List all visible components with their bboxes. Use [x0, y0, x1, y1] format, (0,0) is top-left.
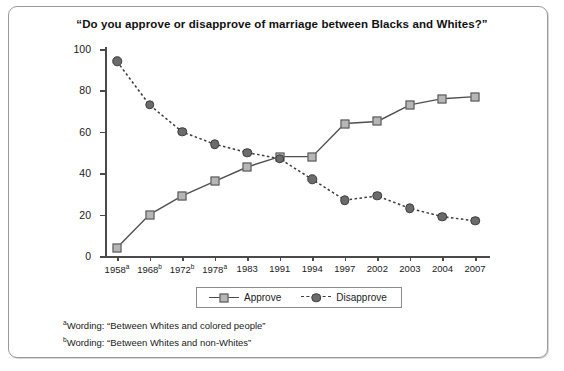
x-tick-label: 1994: [302, 263, 323, 274]
y-tick: 100: [100, 49, 105, 51]
y-tick-label: 40: [79, 167, 91, 179]
x-tick: [247, 256, 249, 261]
y-tick: 80: [100, 90, 105, 92]
data-point-approve[interactable]: [113, 243, 122, 252]
x-tick: [442, 256, 444, 261]
x-tick-label: 2003: [399, 263, 420, 274]
data-point-disapprove[interactable]: [438, 212, 448, 222]
x-tick: [117, 256, 119, 261]
series-lines: [105, 49, 487, 256]
x-tick: [215, 256, 217, 261]
y-tick-label: 20: [79, 209, 91, 221]
y-tick-label: 100: [73, 43, 91, 55]
data-point-disapprove[interactable]: [275, 154, 285, 164]
data-point-disapprove[interactable]: [112, 57, 122, 67]
x-tick: [475, 256, 477, 261]
data-point-approve[interactable]: [438, 94, 447, 103]
data-point-approve[interactable]: [145, 210, 154, 219]
y-tick: 20: [100, 215, 105, 217]
chart-legend: Approve Disapprove: [196, 287, 402, 308]
x-tick-label: 1983: [237, 263, 258, 274]
x-tick-label: 1968b: [137, 263, 162, 275]
x-tick: [410, 256, 412, 261]
legend-item-disapprove[interactable]: Disapprove: [301, 292, 387, 303]
legend-key-approve: [209, 292, 239, 303]
chart-figure: “Do you approve or disapprove of marriag…: [0, 0, 564, 371]
y-tick: 60: [100, 132, 105, 134]
x-tick-label: 2007: [464, 263, 485, 274]
legend-label-disapprove: Disapprove: [336, 292, 387, 303]
x-tick-label: 1972b: [170, 263, 195, 275]
data-point-disapprove[interactable]: [373, 191, 383, 201]
x-tick: [377, 256, 379, 261]
x-tick-label: 2002: [367, 263, 388, 274]
footnote-b: bWording: “Between Whites and non-Whites…: [63, 333, 266, 350]
legend-label-approve: Approve: [244, 292, 281, 303]
data-point-approve[interactable]: [405, 100, 414, 109]
data-point-disapprove[interactable]: [340, 195, 350, 205]
data-point-approve[interactable]: [178, 191, 187, 200]
x-tick-label: 1958a: [105, 263, 130, 275]
plot-area: 020406080100: [105, 49, 487, 256]
data-point-disapprove[interactable]: [405, 204, 415, 214]
x-tick-label: 1978a: [202, 263, 227, 275]
y-tick-label: 0: [85, 250, 91, 262]
footnote-a: aWording: “Between Whites and colored pe…: [63, 316, 266, 333]
y-tick: 40: [100, 173, 105, 175]
data-point-approve[interactable]: [471, 92, 480, 101]
y-tick-label: 60: [79, 126, 91, 138]
y-tick-label: 80: [79, 84, 91, 96]
data-point-approve[interactable]: [308, 152, 317, 161]
data-point-disapprove[interactable]: [470, 216, 480, 226]
x-tick: [150, 256, 152, 261]
x-axis-line: [104, 256, 490, 258]
x-tick: [182, 256, 184, 261]
data-point-disapprove[interactable]: [308, 175, 318, 185]
data-point-disapprove[interactable]: [177, 127, 187, 137]
x-tick-label: 1997: [334, 263, 355, 274]
data-point-approve[interactable]: [340, 119, 349, 128]
data-point-approve[interactable]: [243, 162, 252, 171]
x-tick: [312, 256, 314, 261]
legend-key-disapprove: [301, 292, 331, 303]
x-tick-label: 2004: [432, 263, 453, 274]
data-point-disapprove[interactable]: [210, 139, 220, 149]
series-line-disapprove: [117, 61, 475, 220]
legend-item-approve[interactable]: Approve: [209, 292, 281, 303]
data-point-approve[interactable]: [210, 177, 219, 186]
x-tick-label: 1991: [269, 263, 290, 274]
data-point-approve[interactable]: [373, 117, 382, 126]
data-point-disapprove[interactable]: [145, 100, 155, 110]
x-tick: [345, 256, 347, 261]
y-tick: 0: [100, 256, 105, 258]
footnotes: aWording: “Between Whites and colored pe…: [63, 316, 266, 349]
x-tick: [280, 256, 282, 261]
series-line-approve: [117, 97, 475, 248]
data-point-disapprove[interactable]: [242, 148, 252, 158]
chart-title: “Do you approve or disapprove of marriag…: [0, 18, 564, 30]
